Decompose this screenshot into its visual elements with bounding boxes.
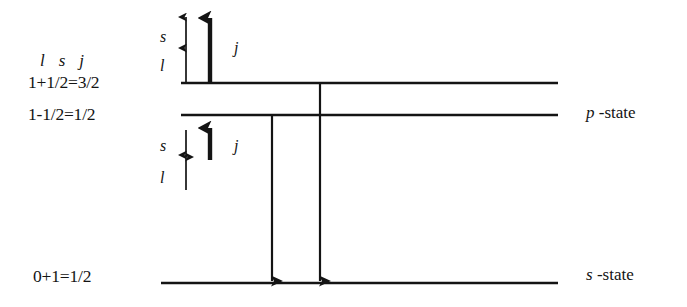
angular-momentum-vectors	[186, 17, 210, 190]
energy-level-lines	[161, 83, 558, 283]
transition-arrows	[272, 83, 320, 281]
diagram-canvas	[0, 0, 687, 307]
energy-level-diagram: lsj 1+1/2=3/2 1-1/2=1/2 0+1=1/2 p -state…	[0, 0, 687, 307]
